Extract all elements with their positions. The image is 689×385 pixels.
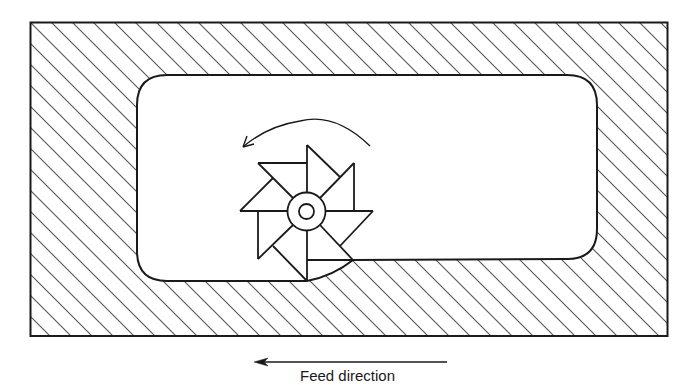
cutter-hub-bore (299, 204, 314, 219)
milling-diagram (0, 0, 689, 385)
workpiece-hatch (30, 22, 667, 336)
feed-direction-label: Feed direction (300, 367, 395, 384)
feed-arrow (254, 358, 447, 366)
